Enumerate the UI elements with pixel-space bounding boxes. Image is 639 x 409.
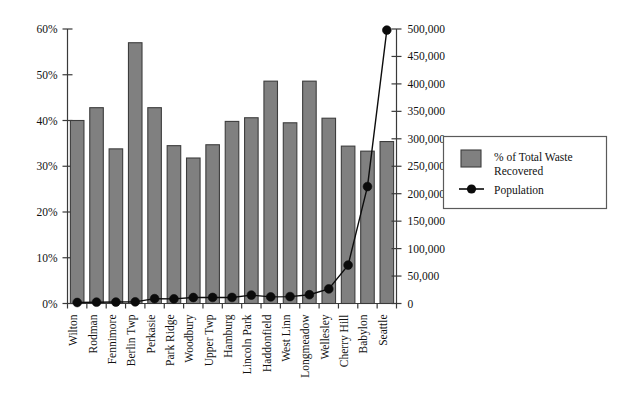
population-point xyxy=(363,182,372,191)
right-tick-label: 250,000 xyxy=(408,160,446,173)
population-point xyxy=(228,293,237,302)
left-axis: 0%10%20%30%40%50%60% xyxy=(36,23,72,310)
left-tick-label: 30% xyxy=(36,160,58,172)
population-point xyxy=(247,291,256,300)
population-point xyxy=(170,294,179,303)
chart-legend: % of Total Waste Recovered Population xyxy=(444,137,607,209)
x-axis-label: Seattle xyxy=(377,315,389,346)
right-tick-label: 50,000 xyxy=(408,270,440,283)
x-axis-label: Upper Twp xyxy=(203,314,216,366)
legend-swatch-waste-icon xyxy=(461,150,481,167)
right-axis: 050,000100,000150,000200,000250,000300,0… xyxy=(392,23,446,310)
bar xyxy=(341,146,355,303)
population-point xyxy=(189,293,198,302)
chart-svg: 0%10%20%30%40%50%60% 050,000100,000150,0… xyxy=(0,0,639,409)
population-point xyxy=(150,294,159,303)
bar xyxy=(245,118,259,304)
population-point xyxy=(73,298,82,307)
x-axis-label: Wellesley xyxy=(319,314,332,359)
bar xyxy=(70,121,84,304)
x-axis-label: Hamburg xyxy=(222,314,235,357)
x-axis-label: Lincoln Park xyxy=(241,314,253,374)
legend-label-population: Population xyxy=(494,184,544,197)
left-tick-label: 60% xyxy=(36,23,58,35)
legend-dot-population-icon xyxy=(467,184,476,193)
bar xyxy=(90,108,104,304)
x-axis-label: Wilton xyxy=(67,314,79,346)
population-point xyxy=(111,298,120,307)
bar xyxy=(264,81,278,303)
legend-label-waste-line2: Recovered xyxy=(494,165,543,177)
left-tick-label: 0% xyxy=(42,298,58,310)
x-axis-label: Longmeadow xyxy=(299,314,312,378)
bar xyxy=(303,81,317,303)
population-point xyxy=(324,285,333,294)
bar xyxy=(225,121,239,303)
left-tick-label: 50% xyxy=(36,69,58,81)
right-tick-label: 450,000 xyxy=(408,50,446,63)
population-point xyxy=(266,293,275,302)
bar xyxy=(361,151,375,303)
bar xyxy=(167,146,181,304)
right-tick-label: 0 xyxy=(408,298,414,310)
bar xyxy=(322,118,336,303)
bar xyxy=(206,145,220,304)
bar xyxy=(187,158,201,303)
x-axis-label: Park Ridge xyxy=(164,315,177,366)
population-point xyxy=(286,292,295,301)
left-tick-label: 20% xyxy=(36,206,58,218)
chart-container: 0%10%20%30%40%50%60% 050,000100,000150,0… xyxy=(0,0,639,409)
population-point xyxy=(208,293,217,302)
right-tick-label: 200,000 xyxy=(408,188,446,201)
left-tick-label: 10% xyxy=(36,252,58,264)
x-axis-label: West Linn xyxy=(280,314,292,362)
x-axis-label: Haddonfield xyxy=(261,314,273,372)
right-axis-tick-labels: 050,000100,000150,000200,000250,000300,0… xyxy=(408,23,446,310)
population-point xyxy=(92,298,101,307)
population-point xyxy=(344,261,353,270)
left-axis-tick-labels: 0%10%20%30%40%50%60% xyxy=(36,23,58,310)
bar xyxy=(283,123,297,304)
right-tick-label: 500,000 xyxy=(408,23,446,36)
right-tick-label: 300,000 xyxy=(408,133,446,146)
right-tick-label: 100,000 xyxy=(408,243,446,256)
right-tick-label: 400,000 xyxy=(408,78,446,91)
x-axis-label: Cherry Hill xyxy=(338,315,351,368)
x-axis-category-labels: WiltonRodmanFennimoreBerlin TwpPerkasieP… xyxy=(67,314,389,378)
bar xyxy=(128,43,142,304)
x-axis-label: Berlin Twp xyxy=(125,314,138,366)
x-axis-label: Babylon xyxy=(357,314,370,353)
population-point xyxy=(131,297,140,306)
x-axis-label: Woodbury xyxy=(183,314,196,363)
population-point xyxy=(305,290,314,299)
right-tick-label: 150,000 xyxy=(408,215,446,228)
x-axis-label: Rodman xyxy=(87,314,99,353)
x-axis-label: Perkasie xyxy=(145,315,157,354)
right-tick-label: 350,000 xyxy=(408,105,446,118)
left-tick-label: 40% xyxy=(36,115,58,127)
x-axis-label: Fennimore xyxy=(106,315,118,365)
bar xyxy=(148,108,162,304)
population-point xyxy=(382,26,391,35)
legend-label-waste-line1: % of Total Waste xyxy=(494,151,573,163)
bar xyxy=(109,149,123,304)
